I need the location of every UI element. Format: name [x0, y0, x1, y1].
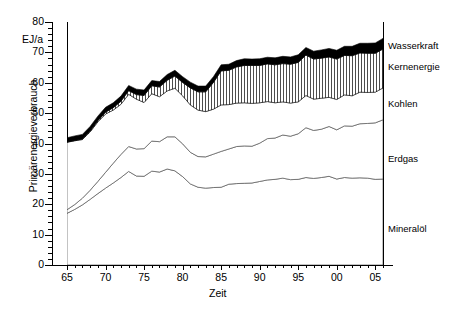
y-tick-major: [45, 204, 52, 205]
y-tick-label: 10: [22, 229, 44, 240]
legend-label-minerall: Mineralöl: [388, 223, 427, 234]
legend-label-kernenergie: Kernenergie: [388, 61, 440, 72]
chart-root: Primärenergieverbrauch EJ/a 010203040506…: [0, 0, 453, 314]
y-tick-major: [45, 83, 52, 84]
x-axis-line: [52, 265, 393, 266]
y-tick-major: [45, 113, 52, 114]
y-tick-major: [45, 22, 52, 23]
y-tick-major: [45, 235, 52, 236]
y-tick-label: 0: [22, 259, 44, 270]
legend-label-erdgas: Erdgas: [388, 153, 418, 164]
y-tick-label: 20: [22, 198, 44, 209]
legend-label-wasserkraft: Wasserkraft: [388, 40, 438, 51]
x-axis-title: Zeit: [209, 287, 227, 299]
y-tick-major: [45, 144, 52, 145]
y-tick-label: 80: [22, 16, 44, 27]
plot-area: [67, 22, 383, 265]
y-tick-label: 40: [22, 138, 44, 149]
legend-label-kohlen: Kohlen: [388, 98, 418, 109]
x-tick-label: 75: [132, 272, 156, 283]
y-tick-label: 60: [22, 77, 44, 88]
x-tick-label: 05: [363, 272, 387, 283]
y-tick-label: 70: [22, 46, 44, 57]
x-tick-label: 00: [325, 272, 349, 283]
stacked-area-svg: [67, 22, 383, 265]
y-axis-labels: 01020304050607080: [0, 0, 44, 314]
x-tick-label: 90: [248, 272, 272, 283]
x-tick-label: 80: [171, 272, 195, 283]
x-tick-label: 85: [209, 272, 233, 283]
y-tick-label: 30: [22, 168, 44, 179]
y-tick-major: [45, 174, 52, 175]
y-tick-label: 50: [22, 107, 44, 118]
x-tick-label: 65: [55, 272, 79, 283]
y-axis-line: [52, 22, 53, 265]
plot-right-border: [383, 22, 384, 265]
y-tick-major: [45, 265, 52, 266]
y-tick-major: [45, 52, 52, 53]
x-tick-label: 95: [286, 272, 310, 283]
x-tick-label: 70: [94, 272, 118, 283]
